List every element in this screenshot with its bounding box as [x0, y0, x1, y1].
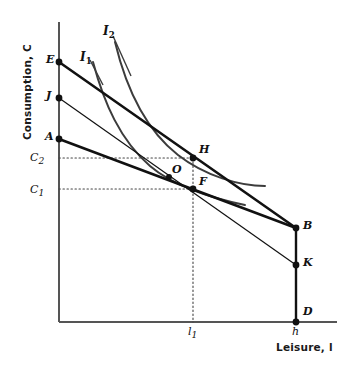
tick-label-c1-sub: 1	[38, 187, 44, 198]
tick-label-c1: C1	[30, 183, 44, 198]
indifference-curves-group	[93, 42, 265, 205]
tick-label-l1: l1	[188, 325, 197, 340]
point-K	[293, 262, 300, 269]
point-B	[293, 225, 300, 232]
data-points-group	[56, 59, 300, 326]
point-label-J: J	[46, 89, 51, 102]
point-H	[190, 155, 197, 162]
point-label-K: K	[303, 256, 313, 269]
budget-line-E-to-B	[59, 62, 296, 228]
point-F	[190, 186, 197, 193]
point-J	[56, 95, 63, 102]
y-axis-title: Consumption, C	[21, 32, 33, 152]
indifference-curve-I1	[93, 62, 245, 205]
point-label-D: D	[303, 305, 313, 318]
leader-I1	[90, 60, 103, 85]
curve-label-I1-sub: 1	[86, 56, 92, 66]
indifference-curve-I2	[115, 42, 265, 186]
x-axis-title: Leisure, l	[276, 341, 333, 353]
point-label-O: O	[172, 163, 182, 176]
tick-label-c2: C2	[30, 151, 44, 166]
point-label-F: F	[199, 175, 207, 188]
tick-label-c2-sub: 2	[38, 155, 44, 166]
tick-label-h: h	[292, 325, 299, 338]
curve-label-I2-sub: 2	[109, 30, 115, 40]
indifference-curve-figure: Consumption, C Leisure, l E J A H O F B …	[0, 0, 361, 374]
budget-lines-group	[59, 62, 296, 322]
tick-label-l1-sub: 1	[192, 329, 198, 340]
point-A	[56, 136, 63, 143]
budget-line-A-to-B	[59, 139, 296, 228]
point-label-E: E	[46, 53, 54, 66]
point-label-H: H	[199, 143, 209, 156]
point-label-B: B	[303, 219, 312, 232]
curve-label-I2: I2	[103, 24, 115, 40]
budget-line-J-to-K	[59, 98, 296, 265]
point-E	[56, 59, 63, 66]
point-label-A: A	[45, 130, 54, 143]
curve-label-I1: I1	[80, 50, 92, 66]
